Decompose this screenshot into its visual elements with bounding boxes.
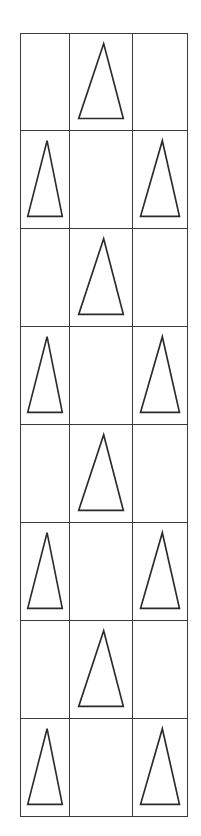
- cell-r4c3: [133, 327, 188, 425]
- cell-r1c1: [20, 33, 70, 131]
- triangle-icon: [133, 327, 187, 424]
- triangle-outline: [141, 533, 180, 609]
- cell-r8c2: [70, 719, 133, 817]
- cell-r7c2: [70, 621, 133, 719]
- triangle-outline: [79, 435, 124, 511]
- triangle-icon: [21, 327, 69, 424]
- grid-row-7: [20, 621, 188, 719]
- cell-r1c2: [70, 33, 133, 131]
- triangle-grid-figure: [20, 33, 188, 817]
- triangle-outline: [141, 337, 180, 413]
- cell-r4c2: [70, 327, 133, 425]
- cell-r1c3: [133, 33, 188, 131]
- cell-r6c2: [70, 523, 133, 621]
- page-root: [0, 0, 201, 836]
- cell-r8c3: [133, 719, 188, 817]
- triangle-outline: [28, 729, 63, 805]
- cell-r7c3: [133, 621, 188, 719]
- triangle-outline: [79, 239, 124, 315]
- triangle-outline: [28, 141, 63, 217]
- triangle-outline: [28, 533, 63, 609]
- triangle-icon: [70, 34, 132, 130]
- cell-r3c3: [133, 229, 188, 327]
- grid-row-6: [20, 523, 188, 621]
- triangle-icon: [21, 131, 69, 228]
- cell-r4c1: [20, 327, 70, 425]
- triangle-icon: [133, 131, 187, 228]
- triangle-icon: [21, 523, 69, 620]
- triangle-icon: [70, 229, 132, 326]
- cell-r2c2: [70, 131, 133, 229]
- cell-r5c1: [20, 425, 70, 523]
- cell-r5c2: [70, 425, 133, 523]
- triangle-outline: [79, 631, 124, 707]
- grid-row-8: [20, 719, 188, 817]
- grid-row-4: [20, 327, 188, 425]
- triangle-icon: [70, 621, 132, 718]
- cell-r3c2: [70, 229, 133, 327]
- cell-r8c1: [20, 719, 70, 817]
- cell-r7c1: [20, 621, 70, 719]
- grid-row-3: [20, 229, 188, 327]
- triangle-outline: [141, 729, 180, 805]
- cell-r6c1: [20, 523, 70, 621]
- triangle-outline: [28, 337, 63, 413]
- triangle-outline: [141, 141, 180, 217]
- cell-r3c1: [20, 229, 70, 327]
- triangle-icon: [133, 719, 187, 816]
- grid-row-5: [20, 425, 188, 523]
- triangle-icon: [133, 523, 187, 620]
- cell-r5c3: [133, 425, 188, 523]
- grid-row-1: [20, 33, 188, 131]
- triangle-icon: [21, 719, 69, 816]
- grid-row-2: [20, 131, 188, 229]
- cell-r6c3: [133, 523, 188, 621]
- triangle-outline: [79, 44, 124, 119]
- cell-r2c1: [20, 131, 70, 229]
- triangle-icon: [70, 425, 132, 522]
- cell-r2c3: [133, 131, 188, 229]
